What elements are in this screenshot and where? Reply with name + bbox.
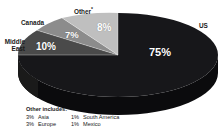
- pie-chart-figure: Canada Middle East Other* US 75% 10% 7% …: [0, 0, 223, 137]
- footnote-percent: 1%: [71, 114, 83, 121]
- footnote-item-mexico: 1% Mexico: [71, 121, 133, 128]
- footnote-row: 3% Europe 1% Mexico: [26, 121, 133, 128]
- footnote-item-asia: 3% Asia: [26, 114, 71, 121]
- slice-label-other: Other*: [74, 8, 93, 15]
- slice-value-canada: 7%: [65, 29, 79, 40]
- footnote-marker: *: [91, 6, 93, 12]
- footnote-percent: 3%: [26, 114, 38, 121]
- footnote-label: Mexico: [83, 121, 101, 128]
- footnote-label: South America: [83, 114, 119, 121]
- footnote-block: Other includes: 3% Asia 1% South America…: [26, 106, 133, 128]
- footnote-item-europe: 3% Europe: [26, 121, 71, 128]
- footnote-label: Asia: [38, 114, 49, 121]
- footnote-label: Europe: [38, 121, 56, 128]
- slice-label-canada: Canada: [21, 19, 44, 26]
- slice-label-us: US: [199, 22, 208, 29]
- slice-label-other-text: Other: [74, 8, 91, 15]
- footnote-title: Other includes:: [26, 106, 133, 113]
- footnote-percent: 1%: [71, 121, 83, 128]
- slice-value-other: 8%: [97, 22, 111, 33]
- slice-value-us: 75%: [149, 46, 171, 58]
- slice-label-middle-east: Middle East: [1, 38, 25, 52]
- footnote-item-south-america: 1% South America: [71, 114, 133, 121]
- footnote-percent: 3%: [26, 121, 38, 128]
- footnote-row: 3% Asia 1% South America: [26, 114, 133, 121]
- slice-value-middle-east: 10%: [36, 41, 56, 52]
